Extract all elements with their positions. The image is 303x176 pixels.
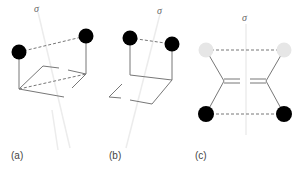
atom-c-bottom-left — [198, 106, 214, 122]
panel-a: σ (a) — [11, 3, 94, 161]
bond — [68, 70, 86, 74]
sigma-label-a: σ — [34, 3, 40, 14]
bond — [72, 74, 86, 88]
bond — [109, 97, 121, 98]
mirror-plane-a-lower — [52, 110, 58, 150]
sigma-label-c: σ — [242, 12, 248, 23]
panel-label-b: (b) — [109, 150, 121, 161]
sigma-label-b: σ — [157, 5, 163, 16]
bond — [152, 80, 172, 104]
panel-c: σ (c) — [195, 12, 292, 161]
atom-c-bottom-right — [276, 106, 292, 122]
atom-c-top-right — [277, 43, 292, 58]
panel-label-a: (a) — [11, 150, 23, 161]
panel-b: σ (b) — [109, 5, 180, 161]
atom-b-left — [123, 31, 138, 46]
molecular-symmetry-figure: σ (a) σ (b) σ — [0, 0, 303, 176]
bond — [109, 84, 122, 97]
bond — [19, 66, 43, 89]
bond — [130, 100, 152, 104]
atom-b-right — [165, 37, 180, 52]
atom-a-right — [79, 29, 94, 44]
atom-a-left — [12, 45, 27, 60]
panel-label-c: (c) — [195, 150, 207, 161]
bond — [130, 75, 172, 80]
atom-c-top-left — [199, 43, 214, 58]
dashed-bond — [19, 36, 86, 52]
